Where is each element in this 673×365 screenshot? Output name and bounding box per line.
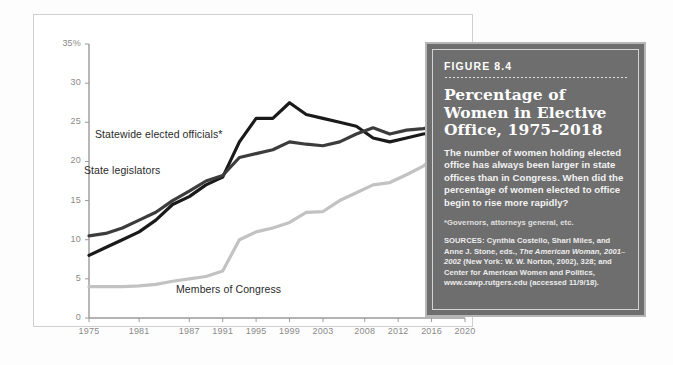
y-axis-tick-label: 5 — [41, 273, 81, 283]
y-axis-tick-label: 20 — [41, 155, 81, 165]
x-axis-tick-label: 2003 — [301, 326, 345, 336]
figure-description: The number of women holding elected offi… — [444, 147, 627, 210]
figure-sources: SOURCES: Cynthia Costello, Shari Miles, … — [444, 236, 627, 288]
chart-axes — [89, 44, 465, 318]
y-axis-tick-label: 0 — [41, 312, 81, 322]
y-axis-tick-label: 30 — [41, 77, 81, 87]
figure-footnote: *Governors, attorneys general, etc. — [444, 218, 627, 228]
figure-caption-inner: FIGURE 8.4 Percentage of Women in Electi… — [432, 49, 639, 310]
x-axis-tick-label: 2020 — [443, 326, 487, 336]
y-axis-tick-label: 35% — [41, 38, 81, 48]
figure-title: Percentage of Women in Elective Office, … — [444, 86, 627, 139]
x-axis-tick-label: 1975 — [67, 326, 111, 336]
series-label: Members of Congress — [176, 283, 281, 295]
chart-tick-marks — [85, 44, 465, 322]
y-axis-tick-label: 10 — [41, 234, 81, 244]
dotted-divider — [444, 76, 627, 79]
y-axis-tick-label: 25 — [41, 116, 81, 126]
x-axis-tick-label: 1981 — [117, 326, 161, 336]
sources-suffix: (New York: W. W. Norton, 2002), 328; and… — [444, 257, 612, 287]
y-axis-tick-label: 15 — [41, 195, 81, 205]
line-chart: 05101520253035% 197519811987199119951999… — [33, 14, 473, 344]
figure-number-label: FIGURE 8.4 — [444, 60, 627, 72]
figure-caption-box: FIGURE 8.4 Percentage of Women in Electi… — [425, 42, 646, 317]
series-label: Statewide elected officials* — [95, 128, 223, 140]
page-background: 05101520253035% 197519811987199119951999… — [0, 0, 673, 365]
series-line — [89, 138, 448, 287]
series-label: State legislators — [84, 164, 160, 176]
